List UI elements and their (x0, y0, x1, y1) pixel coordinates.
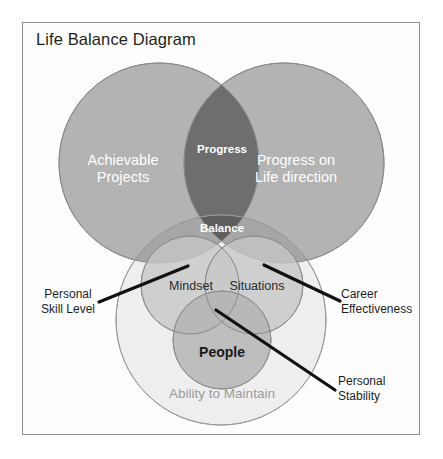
callout-personal-skill-line1: Personal (30, 287, 106, 302)
label-ability-to-maintain: Ability to Maintain (146, 386, 298, 402)
diagram-canvas: Life Balance Diagram (0, 0, 443, 459)
callout-career-effectiveness: Career Effectiveness (341, 287, 435, 317)
callout-career-line2: Effectiveness (341, 302, 435, 317)
callout-stability-line1: Personal (338, 374, 418, 389)
label-situations: Situations (219, 279, 295, 294)
callout-personal-skill-level: Personal Skill Level (30, 287, 106, 317)
callout-personal-stability: Personal Stability (338, 374, 418, 404)
callout-stability-line2: Stability (338, 389, 418, 404)
label-achievable-projects: Achievable Projects (68, 152, 178, 186)
label-achievable-projects-line1: Achievable (68, 152, 178, 169)
label-balance: Balance (190, 222, 254, 236)
label-progress-on-life-direction: Progress on Life direction (236, 152, 356, 186)
label-progress: Progress (186, 143, 258, 157)
callout-personal-skill-line2: Skill Level (30, 302, 106, 317)
label-mindset: Mindset (155, 279, 227, 294)
label-progress-life-line2: Life direction (236, 169, 356, 186)
label-people: People (186, 344, 258, 361)
label-achievable-projects-line2: Projects (68, 169, 178, 186)
callout-career-line1: Career (341, 287, 435, 302)
